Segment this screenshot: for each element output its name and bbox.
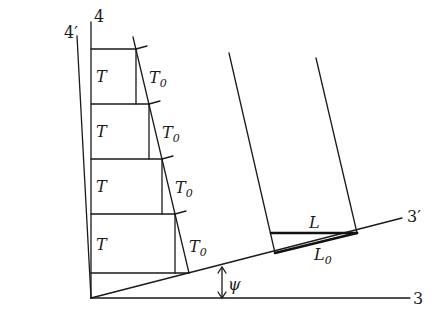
cell-4-T0: T0: [189, 237, 207, 259]
rod-worldline-right: [316, 58, 357, 233]
angle-psi-label: ψ: [228, 275, 241, 294]
tick-4: [175, 211, 186, 214]
axis-3-prime: [91, 218, 402, 298]
cell-3-T: T: [96, 177, 108, 196]
length-L0-label: L0: [313, 245, 332, 267]
tick-1: [136, 46, 147, 49]
cell-1-T: T: [96, 67, 108, 86]
tick-3: [162, 156, 173, 159]
axis-4-label: 4: [94, 7, 104, 26]
lorentz-contraction-diagram: 4 4′ 3 3′ ψ T T T T T0 T0 T0 T0 L L0: [0, 0, 443, 322]
cell-1-T0: T0: [149, 68, 167, 90]
tick-2: [149, 101, 160, 104]
axis-4-prime: [77, 36, 91, 298]
cell-3-T0: T0: [175, 178, 193, 200]
axis-3-prime-label: 3′: [407, 207, 421, 226]
cell-4-T: T: [96, 235, 108, 254]
cell-2-T: T: [96, 122, 108, 141]
axis-3-label: 3: [413, 289, 423, 308]
length-L-label: L: [308, 213, 320, 232]
rod-worldline-left: [229, 53, 275, 253]
cell-2-T0: T0: [162, 123, 180, 145]
slanted-worldline: [133, 37, 189, 273]
axis-4-prime-label: 4′: [64, 23, 78, 42]
